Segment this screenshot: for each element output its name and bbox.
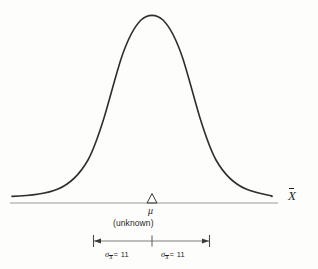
standard-error-measure-bar xyxy=(93,235,210,247)
mean-unknown-caption: (unknown) xyxy=(113,219,154,228)
sigma-subscript-right: X xyxy=(165,255,168,261)
triangle-up-icon xyxy=(147,194,157,204)
figure-canvas xyxy=(0,0,318,269)
sigma-value-right: 11 xyxy=(176,250,185,259)
x-axis-title: X xyxy=(288,189,296,202)
normal-curve xyxy=(12,15,272,196)
sigma-subscript-left-text: X xyxy=(109,255,112,261)
normal-distribution-figure: μ (unknown) X σX= 11 σX= 11 xyxy=(0,0,318,269)
sigma-equals-right: = xyxy=(169,250,174,259)
standard-error-label-right: σX= 11 xyxy=(161,250,185,259)
sigma-subscript-right-text: X xyxy=(165,255,168,261)
measure-bar-left-arrowhead xyxy=(94,238,101,243)
measure-bar-right-arrowhead xyxy=(202,238,209,243)
sigma-equals-left: = xyxy=(113,250,118,259)
x-axis-title-text: X xyxy=(288,189,296,202)
sigma-subscript-left: X xyxy=(109,255,112,261)
mean-symbol-label: μ xyxy=(148,206,153,216)
standard-error-label-left: σX= 11 xyxy=(105,250,129,259)
sigma-value-left: 11 xyxy=(120,250,129,259)
